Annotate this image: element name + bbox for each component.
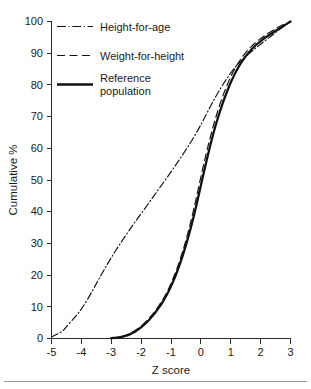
y-tick-label: 70 [31, 110, 43, 122]
series-height-for-age [52, 22, 291, 337]
y-tick-label: 40 [31, 205, 43, 217]
legend-label-reference-population-line2: population [100, 85, 151, 97]
y-tick-label: 90 [31, 47, 43, 59]
y-tick-label: 50 [31, 174, 43, 186]
y-tick-label: 20 [31, 269, 43, 281]
x-tick-label: 0 [198, 346, 204, 358]
axis-lines [52, 22, 291, 339]
y-axis-tick-labels: 0 10 20 30 40 50 60 70 80 90 100 [25, 15, 43, 344]
series-reference-population [111, 22, 290, 339]
cumulative-distribution-chart: 0 10 20 30 40 50 60 70 80 90 100 -5 [0, 0, 311, 389]
legend-label-reference-population-line1: Reference [100, 72, 151, 84]
x-tick-label: -2 [136, 346, 146, 358]
x-tick-label: -1 [166, 346, 176, 358]
legend-label-weight-for-height: Weight-for-height [100, 50, 184, 62]
x-axis-tick-labels: -5 -4 -3 -2 -1 0 1 2 3 [47, 346, 294, 358]
x-axis-title: Z score [152, 364, 190, 376]
y-tick-label: 30 [31, 237, 43, 249]
data-curves [52, 22, 291, 339]
y-tick-label: 100 [25, 15, 43, 27]
legend-label-height-for-age: Height-for-age [100, 21, 170, 33]
x-tick-label: -3 [106, 346, 116, 358]
series-weight-for-height [111, 22, 290, 339]
x-axis-ticks [52, 339, 291, 344]
x-tick-label: 3 [287, 346, 293, 358]
x-tick-label: -4 [77, 346, 87, 358]
x-tick-label: 2 [258, 346, 264, 358]
y-tick-label: 0 [37, 332, 43, 344]
chart-legend: Height-for-age Weight-for-height Referen… [57, 21, 184, 98]
x-tick-label: 1 [228, 346, 234, 358]
axes-frame [52, 22, 291, 339]
x-tick-label: -5 [47, 346, 57, 358]
y-axis-ticks [47, 22, 52, 339]
y-tick-label: 80 [31, 79, 43, 91]
y-axis-title: Cumulative % [7, 145, 19, 216]
y-tick-label: 60 [31, 142, 43, 154]
figure-container: 0 10 20 30 40 50 60 70 80 90 100 -5 [0, 0, 311, 389]
y-tick-label: 10 [31, 301, 43, 313]
